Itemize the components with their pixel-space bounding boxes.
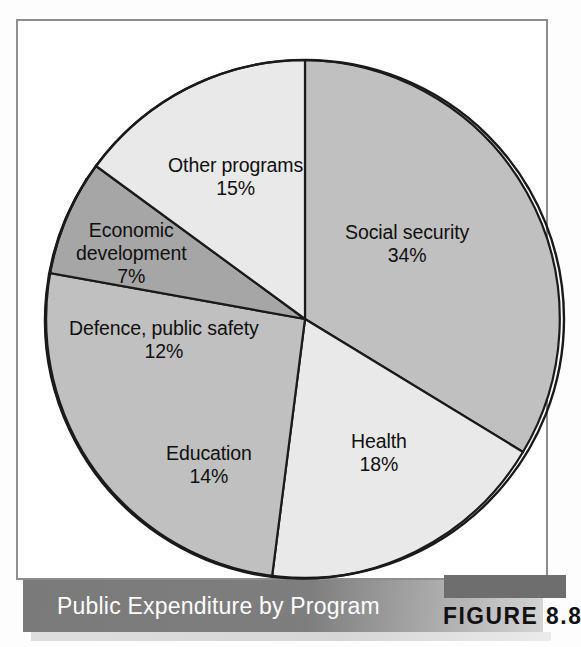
figure-caption-band: Public Expenditure by Program FIGURE 8.8: [23, 580, 581, 636]
figure-container: Social security 34% Health 18% Education…: [0, 0, 581, 647]
pie-label-economic-development-name-line2: development: [76, 242, 187, 265]
pie-label-social-security-value: 34%: [345, 244, 469, 267]
pie-chart-svg: [18, 21, 581, 602]
pie-label-other-programs: Other programs 15%: [168, 154, 303, 200]
pie-label-education-value: 14%: [166, 465, 252, 488]
pie-chart: Social security 34% Health 18% Education…: [18, 21, 581, 602]
caption-drop-shadow: [31, 632, 551, 641]
pie-label-economic-development: Economic development 7%: [76, 219, 187, 288]
figure-number-tab: [444, 575, 566, 598]
pie-label-other-programs-value: 15%: [168, 177, 303, 200]
figure-number-label: FIGURE 8.8: [443, 602, 581, 630]
pie-label-health: Health 18%: [351, 430, 407, 476]
pie-label-defence-public-safety: Defence, public safety 12%: [69, 317, 259, 363]
pie-label-economic-development-value: 7%: [76, 265, 187, 288]
pie-label-defence-public-safety-value: 12%: [69, 340, 259, 363]
pie-label-defence-public-safety-name: Defence, public safety: [69, 317, 259, 339]
figure-caption-text: Public Expenditure by Program: [57, 591, 380, 621]
pie-label-social-security-name: Social security: [345, 221, 469, 243]
pie-label-health-name: Health: [351, 430, 407, 452]
pie-label-other-programs-name: Other programs: [168, 154, 303, 176]
chart-frame: Social security 34% Health 18% Education…: [16, 19, 548, 580]
pie-label-education-name: Education: [166, 442, 252, 464]
pie-label-social-security: Social security 34%: [345, 221, 469, 267]
pie-label-education: Education 14%: [166, 442, 252, 488]
pie-label-health-value: 18%: [351, 453, 407, 476]
pie-label-economic-development-name-line1: Economic: [76, 219, 187, 242]
